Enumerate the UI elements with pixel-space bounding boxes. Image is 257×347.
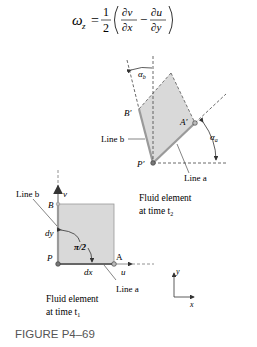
v-axis-label: v <box>63 189 67 199</box>
diagonal-reference-line <box>195 94 226 123</box>
t2-caption-line2: at time t2 <box>139 206 173 217</box>
right-angle-label: π/2 <box>74 242 86 252</box>
dy-denominator: ∂y <box>151 21 161 33</box>
b-prime-label: B′ <box>124 108 132 118</box>
x-axis-label: x <box>189 300 194 309</box>
figure-label: FIGURE P4–69 <box>15 328 95 340</box>
omega-subscript: z <box>81 21 86 31</box>
b-label: B <box>48 200 54 210</box>
omega-symbol: ω <box>72 12 83 28</box>
equals-sign: = <box>91 13 99 28</box>
alpha-b-label: αb <box>138 69 146 80</box>
line-a-prime-label: Line a <box>184 173 207 183</box>
vorticity-equation: ω z = 1 2 ∂v ∂x − ∂u ∂y <box>72 5 173 35</box>
y-axis-label: y <box>175 267 180 276</box>
original-fluid-element: Line b v B dy π/2 P A u dx Line a Fluid … <box>16 170 154 318</box>
point-b <box>56 202 60 206</box>
a-label: A <box>116 252 123 262</box>
diagram-canvas: ω z = 1 2 ∂v ∂x − ∂u ∂y αb αa B′ <box>0 0 257 347</box>
t1-caption-line2: at time t1 <box>46 307 80 318</box>
xy-axes-icon: y x <box>174 267 194 309</box>
tilted-reference-line <box>127 60 139 109</box>
line-a-leader <box>104 265 116 280</box>
right-paren <box>169 6 173 34</box>
p-label: P <box>46 253 53 263</box>
dx-label: dx <box>84 267 93 277</box>
line-b-prime-label: Line b <box>101 134 125 144</box>
point-a <box>112 262 117 267</box>
half-denominator: 2 <box>103 21 109 35</box>
point-p-prime <box>151 161 156 166</box>
point-p <box>56 262 61 267</box>
deformed-fluid-element: αb αa B′ A′ P′ Line b Line a Fluid eleme… <box>101 56 228 217</box>
point-a-prime <box>193 121 198 126</box>
left-paren <box>115 6 119 34</box>
alpha-a-label: αa <box>210 132 218 143</box>
du-numerator: ∂u <box>151 6 162 18</box>
line-a-label: Line a <box>116 284 139 294</box>
t1-caption-line1: Fluid element <box>46 294 99 304</box>
dy-label: dy <box>45 228 54 238</box>
line-a-prime-leader <box>177 144 189 173</box>
a-prime-label: A′ <box>179 117 188 127</box>
u-axis-label: u <box>121 267 126 277</box>
p-prime-label: P′ <box>136 159 145 169</box>
line-b-label: Line b <box>16 189 40 199</box>
dv-numerator: ∂v <box>122 6 132 18</box>
half-numerator: 1 <box>103 5 109 19</box>
minus-sign: − <box>140 12 147 27</box>
dx-denominator: ∂x <box>122 21 132 33</box>
t2-caption-line1: Fluid element <box>139 193 192 203</box>
original-element-fill <box>58 204 114 264</box>
